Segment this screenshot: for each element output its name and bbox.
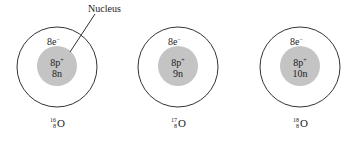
nucleus-composition-o18: 8p+ 10n: [280, 55, 320, 79]
isotope-symbol-o16: 168O: [50, 117, 65, 129]
isotope-symbol-o18: 188O: [293, 117, 308, 129]
electron-count-o16: 8e−: [47, 34, 60, 47]
nucleus-composition-o16: 8p+ 8n: [37, 55, 77, 79]
electron-count-o17: 8e−: [168, 34, 181, 47]
nucleus-callout-label: Nucleus: [88, 4, 121, 14]
isotope-symbol-o17: 178O: [171, 117, 186, 129]
electron-count-o18: 8e−: [290, 34, 303, 47]
nucleus-composition-o17: 8p+ 9n: [158, 55, 198, 79]
